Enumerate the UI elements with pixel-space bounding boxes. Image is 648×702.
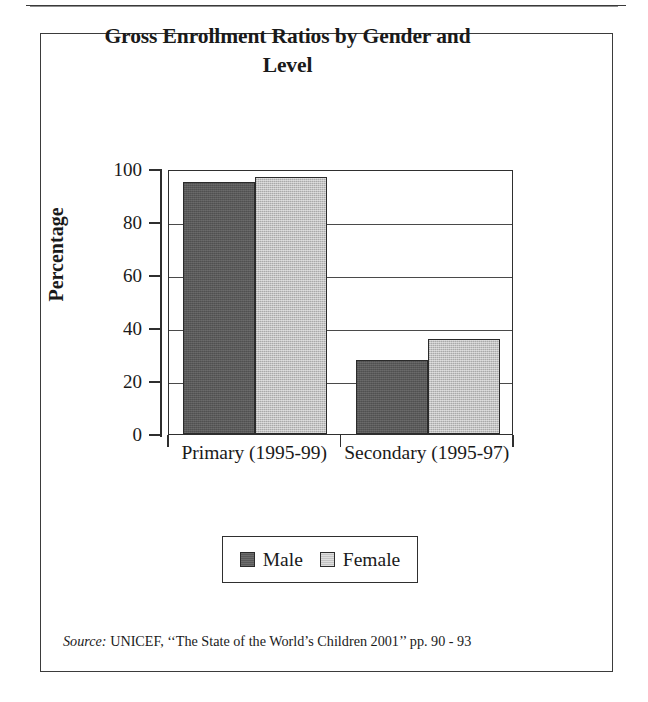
bar-female-1: [255, 177, 327, 434]
source-text: UNICEF, ‘‘The State of the World’s Child…: [110, 633, 471, 649]
y-axis-spine: [160, 169, 162, 437]
chart-legend: MaleFemale: [222, 536, 418, 583]
y-axis-tick: [149, 222, 161, 223]
legend-swatch-male: [240, 552, 255, 567]
legend-swatch-female: [320, 552, 335, 567]
source-note: Source: UNICEF, ‘‘The State of the World…: [63, 632, 471, 650]
y-axis-tick-label: 20: [96, 372, 142, 391]
plot-area: [168, 170, 513, 435]
chart-title-line-2: Level: [60, 51, 515, 80]
y-axis-tick-label: 0: [96, 425, 142, 444]
y-axis-tick-label: 60: [96, 266, 142, 285]
y-axis-tick-label: 40: [96, 319, 142, 338]
chart-title: Gross Enrollment Ratios by Gender and Le…: [60, 22, 515, 80]
x-axis-category-label: Primary (1995-99): [168, 442, 341, 464]
y-axis-tick-label: 100: [96, 160, 142, 179]
bar-male-2: [356, 360, 428, 434]
page-top-rule-secondary: [30, 6, 618, 7]
chart-title-line-1: Gross Enrollment Ratios by Gender and: [60, 22, 515, 51]
legend-item-male: Male: [240, 550, 303, 570]
y-axis-tick: [149, 381, 161, 382]
y-axis-tick: [149, 434, 161, 435]
y-axis-tick: [149, 328, 161, 329]
bar-male-1: [183, 182, 255, 434]
legend-label-male: Male: [263, 550, 303, 570]
y-axis-tick: [149, 275, 161, 276]
y-axis-tick-label: 80: [96, 213, 142, 232]
y-axis-title: Percentage: [45, 175, 68, 335]
y-axis-tick: [149, 169, 161, 170]
legend-item-female: Female: [320, 550, 400, 570]
source-label: Source:: [63, 633, 107, 649]
bar-female-2: [428, 339, 500, 434]
legend-label-female: Female: [343, 550, 400, 570]
x-axis-category-label: Secondary (1995-97): [341, 442, 514, 464]
